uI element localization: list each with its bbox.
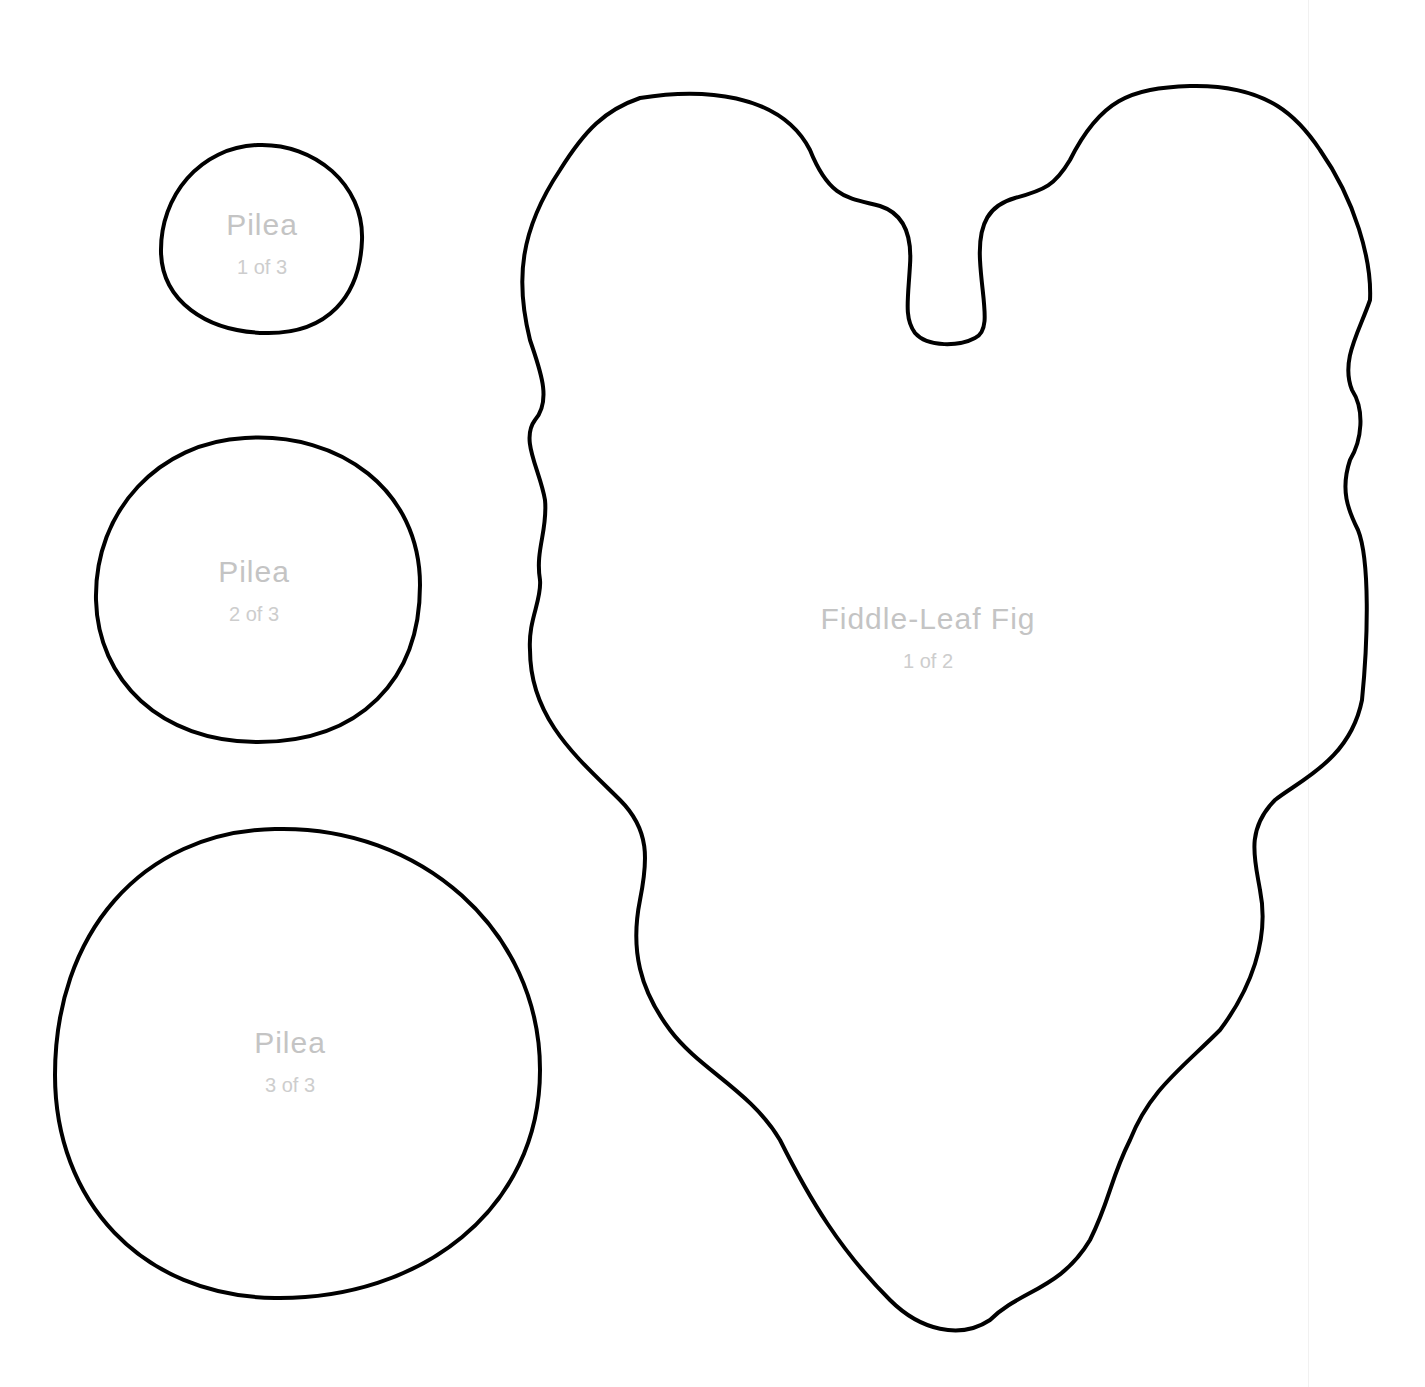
shape-name: Pilea (226, 208, 298, 242)
shape-name: Pilea (218, 555, 290, 589)
shape-count: 1 of 2 (820, 650, 1035, 673)
leaf-templates-canvas (0, 0, 1425, 1387)
pilea-2-label: Pilea 2 of 3 (218, 555, 290, 626)
shape-count: 1 of 3 (226, 256, 298, 279)
shape-count: 3 of 3 (254, 1074, 326, 1097)
fiddle-leaf-fig-label: Fiddle-Leaf Fig 1 of 2 (820, 602, 1035, 673)
pilea-1-label: Pilea 1 of 3 (226, 208, 298, 279)
shape-name: Fiddle-Leaf Fig (820, 602, 1035, 636)
pilea-3-label: Pilea 3 of 3 (254, 1026, 326, 1097)
shape-name: Pilea (254, 1026, 326, 1060)
shape-count: 2 of 3 (218, 603, 290, 626)
fiddle-leaf-fig-outline (522, 86, 1370, 1330)
